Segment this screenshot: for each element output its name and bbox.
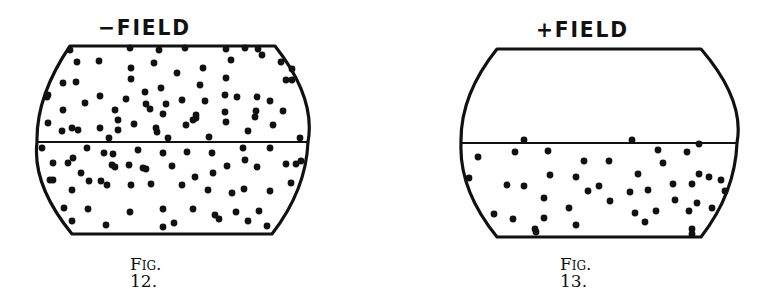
particle-dot xyxy=(573,222,580,229)
particle-dot xyxy=(510,216,517,223)
particle-dot xyxy=(689,181,696,188)
particle-dot xyxy=(596,183,603,190)
particle-dot xyxy=(541,215,548,222)
particle-dot xyxy=(581,158,588,165)
particle-dot xyxy=(689,231,696,238)
particle-dot xyxy=(585,188,592,195)
vessel-diagram-13 xyxy=(0,0,759,289)
particle-dot xyxy=(696,141,703,148)
caption-fig-13: Fig. 13. xyxy=(560,256,592,289)
particle-dot xyxy=(660,160,667,167)
particle-dot xyxy=(491,211,498,218)
particle-dot xyxy=(684,149,691,156)
particle-dot xyxy=(606,158,613,165)
particle-dot xyxy=(521,137,528,144)
particle-dot xyxy=(629,137,636,144)
particle-dot xyxy=(635,171,642,178)
particle-dot xyxy=(533,229,540,236)
particle-dot xyxy=(718,177,725,184)
particle-dot xyxy=(547,172,554,179)
particle-dot xyxy=(512,149,519,156)
particle-dot xyxy=(632,210,639,217)
particles-13 xyxy=(466,137,729,238)
particle-dot xyxy=(694,200,701,207)
particle-dot xyxy=(686,208,693,215)
particle-dot xyxy=(706,174,713,181)
particle-dot xyxy=(466,175,473,182)
particle-dot xyxy=(545,148,552,155)
particle-dot xyxy=(653,208,660,215)
particle-dot xyxy=(672,197,679,204)
particle-dot xyxy=(573,174,580,181)
particle-dot xyxy=(475,154,482,161)
particle-dot xyxy=(541,195,548,202)
particle-dot xyxy=(566,205,573,212)
particle-dot xyxy=(521,183,528,190)
particle-dot xyxy=(655,147,662,154)
particle-dot xyxy=(642,219,649,226)
particle-dot xyxy=(709,205,716,212)
particle-dot xyxy=(607,198,614,205)
particle-dot xyxy=(504,182,511,189)
particle-dot xyxy=(696,171,703,178)
particle-dot xyxy=(670,181,677,188)
particle-dot xyxy=(645,187,652,194)
particle-dot xyxy=(722,188,729,195)
particle-dot xyxy=(627,189,634,196)
